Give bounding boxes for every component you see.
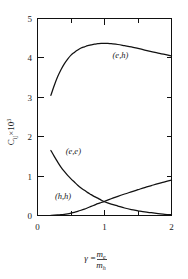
x-axis-gamma: γ [84, 253, 88, 263]
svg-text:Cij×103: Cij×103 [6, 119, 18, 145]
data-curves [51, 43, 172, 215]
y-ticklabel-0: 0 [28, 211, 33, 221]
line-chart: 0 1 2 3 4 5 0 1 2 Cij×103 γ = me [0, 0, 188, 279]
y-axis-times: ×10 [6, 121, 16, 136]
y-tick-labels: 0 1 2 3 4 5 [28, 14, 33, 221]
figure-container: 0 1 2 3 4 5 0 1 2 Cij×103 γ = me [0, 0, 188, 279]
curve-annotations: (e,h) (e,e) (h,h) [55, 50, 129, 201]
y-ticklabel-4: 4 [28, 53, 33, 63]
x-ticklabel-1: 1 [102, 222, 107, 232]
x-tick-labels: 0 1 2 [35, 222, 174, 232]
x-axis-denominator-sub: h [103, 265, 106, 271]
annotation-ee: (e,e) [66, 146, 82, 156]
y-ticklabel-2: 2 [28, 132, 33, 142]
x-ticklabel-0: 0 [35, 222, 40, 232]
svg-text:mh: mh [96, 260, 106, 271]
annotation-eh: (e,h) [113, 50, 129, 60]
svg-text:me: me [96, 249, 106, 260]
y-ticklabel-5: 5 [28, 14, 33, 24]
curve-eh [51, 43, 172, 95]
x-ticklabel-2: 2 [169, 222, 174, 232]
y-axis-title: Cij×103 [6, 119, 18, 145]
annotation-hh: (h,h) [55, 191, 71, 201]
x-axis-equals: = [90, 253, 95, 263]
y-ticklabel-1: 1 [28, 172, 33, 182]
x-axis-title: γ = me mh [84, 249, 106, 271]
y-ticklabel-3: 3 [28, 93, 33, 103]
curve-ee [51, 150, 172, 214]
y-axis-exponent: 3 [6, 119, 12, 122]
